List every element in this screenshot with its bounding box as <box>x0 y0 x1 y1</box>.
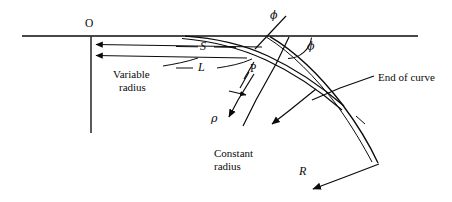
figure-canvas: O S L Variable radius P ϕ ϕ ρ Constant r… <box>0 0 452 202</box>
label-variable-radius-line1: Variable <box>113 68 150 81</box>
label-radius-r: R <box>299 165 306 177</box>
spiral-curve-lower <box>182 39 342 111</box>
dimension-line-l <box>96 56 247 59</box>
label-constant-radius-line2: radius <box>214 160 241 173</box>
label-phi-upper: ϕ <box>270 10 278 21</box>
leader-variable-radius <box>163 58 198 66</box>
radial-arrow-mid <box>272 89 316 124</box>
circular-arc-inner <box>267 38 372 163</box>
radius-r-arrow <box>313 164 379 189</box>
label-phi-lower: ϕ <box>307 41 315 52</box>
tick-arc-upper-right <box>356 116 365 124</box>
label-rho: ρ <box>211 113 217 124</box>
label-variable-radius-line2: radius <box>119 81 146 94</box>
leader-l-label <box>217 59 252 68</box>
tick-at-p-lower <box>240 72 249 88</box>
label-point-p: P <box>250 63 256 75</box>
label-dimension-s: S <box>200 40 206 52</box>
label-dimension-l: L <box>198 61 205 73</box>
label-origin-o: O <box>85 18 93 30</box>
label-constant-radius-line1: Constant <box>214 147 253 160</box>
label-end-of-curve: End of curve <box>378 72 435 83</box>
